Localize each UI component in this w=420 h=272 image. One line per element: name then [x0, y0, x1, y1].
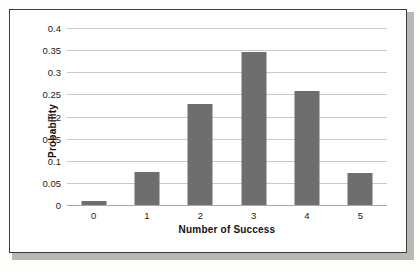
- chart-frame: Probability 00.050.10.150.20.250.30.350.…: [9, 9, 407, 253]
- bar[interactable]: [81, 201, 106, 205]
- y-tick-label: 0.15: [43, 133, 62, 144]
- bar-slot: 3: [227, 28, 280, 205]
- x-tick-label: 4: [304, 210, 309, 221]
- bar-slot: 1: [120, 28, 173, 205]
- y-tick-label: 0: [56, 200, 61, 211]
- bar[interactable]: [348, 173, 373, 205]
- x-axis-title: Number of Success: [67, 224, 387, 235]
- x-tick-label: 5: [358, 210, 363, 221]
- y-tick-label: 0.1: [48, 155, 61, 166]
- chart-screenshot: Probability 00.050.10.150.20.250.30.350.…: [0, 0, 420, 272]
- bar[interactable]: [188, 104, 213, 205]
- bars-layer: 012345: [67, 28, 387, 205]
- x-tick-label: 0: [91, 210, 96, 221]
- x-tick-label: 1: [144, 210, 149, 221]
- y-tick-label: 0.35: [43, 45, 62, 56]
- bar-slot: 4: [280, 28, 333, 205]
- bar-slot: 2: [174, 28, 227, 205]
- bar-slot: 5: [334, 28, 387, 205]
- y-tick-label: 0.05: [43, 177, 62, 188]
- y-tick-label: 0.4: [48, 23, 61, 34]
- y-tick-label: 0.3: [48, 67, 61, 78]
- plot-area: 00.050.10.150.20.250.30.350.4 012345: [67, 28, 387, 205]
- x-axis-line: [67, 205, 387, 206]
- y-tick-label: 0.25: [43, 89, 62, 100]
- x-tick-label: 2: [198, 210, 203, 221]
- bar[interactable]: [134, 172, 159, 205]
- bar[interactable]: [241, 52, 266, 205]
- x-tick-label: 3: [251, 210, 256, 221]
- bar[interactable]: [294, 91, 319, 205]
- y-tick-label: 0.2: [48, 111, 61, 122]
- bar-slot: 0: [67, 28, 120, 205]
